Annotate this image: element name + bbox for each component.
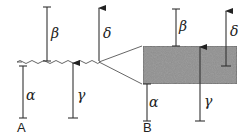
alpha-label: α [149,94,159,110]
interface-diagram: β δ α γ A [0,0,252,139]
beta-label: β [178,18,187,34]
delta-vector-a: δ [99,8,111,61]
interface-layer [143,46,237,84]
panel-a: β δ α γ A [17,7,111,135]
magnification-lines [99,46,142,84]
alpha-vector-a: α [19,66,36,118]
alpha-label: α [26,87,36,103]
gamma-label: γ [204,93,213,109]
alpha-vector-b: α [143,84,159,121]
gamma-vector-a: γ [68,63,86,118]
gamma-label: γ [77,87,86,103]
beta-vector-a: β [43,7,59,61]
beta-vector-b: β [172,9,187,46]
beta-label: β [50,25,59,41]
panel-b: β δ α γ B [143,9,238,135]
delta-label: δ [103,25,111,41]
rough-interface-line [17,61,100,64]
delta-label: δ [230,23,238,39]
panel-label-a: A [17,120,26,135]
panel-label-b: B [143,120,152,135]
